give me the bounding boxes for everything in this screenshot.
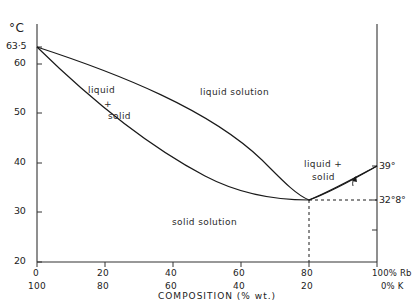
- x-top-tick-20: 20: [97, 269, 109, 278]
- x-axis-title: COMPOSITION (% wt.): [158, 292, 276, 301]
- phase-diagram-canvas: [0, 0, 420, 303]
- x-axis-ticks: [37, 262, 377, 267]
- region-label-solid-solution: solid solution: [172, 218, 237, 227]
- x-top-tick-0: 0: [33, 269, 39, 278]
- x-top-tick-40: 40: [165, 269, 177, 278]
- x-bottom-tick-80: 80: [97, 282, 109, 291]
- region-label-liquid-solution: liquid solution: [200, 88, 269, 97]
- region-label-liquid-solid-left-line2: +: [104, 100, 112, 109]
- region-label-liquid-solid-left-line3: solid: [108, 112, 131, 121]
- phase-diagram-figure: °C 63·5 60 50 40 30 20 0 20 40 60 80 100…: [0, 0, 420, 303]
- x-bottom-tick-40: 40: [233, 282, 245, 291]
- x-top-tick-100-rb: 100% Rb: [372, 269, 412, 278]
- y-axis-ticks: [37, 47, 42, 262]
- region-label-liquid-solid-left-line1: liquid: [88, 86, 115, 95]
- x-top-tick-80: 80: [301, 269, 313, 278]
- x-bottom-tick-60: 60: [165, 282, 177, 291]
- right-axis-ticks: [372, 166, 377, 230]
- temperature-label-32-8: 32°8°: [379, 195, 406, 205]
- region-label-liquid-solid-right-line2: solid: [312, 173, 335, 182]
- x-bottom-tick-0-k: 0% K: [381, 282, 404, 291]
- region-label-liquid-solid-right-line1: liquid +: [304, 160, 342, 169]
- y-tick-label-20: 20: [14, 256, 26, 266]
- y-tick-label-50: 50: [14, 107, 26, 117]
- liquid-solid-right-pointer-icon: [352, 176, 357, 186]
- x-top-tick-60: 60: [233, 269, 245, 278]
- y-tick-label-60: 60: [14, 58, 26, 68]
- x-bottom-tick-20: 20: [301, 282, 313, 291]
- y-axis-unit-label: °C: [9, 22, 24, 34]
- y-tick-label-30: 30: [14, 206, 26, 216]
- y-tick-label-63-5: 63·5: [6, 41, 26, 51]
- x-bottom-tick-100: 100: [28, 282, 46, 291]
- y-tick-label-40: 40: [14, 157, 26, 167]
- temperature-label-39: 39°: [379, 161, 395, 171]
